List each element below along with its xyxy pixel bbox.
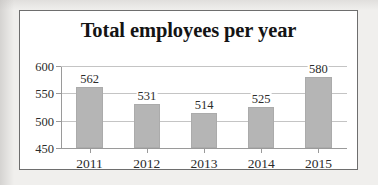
y-axis-label: 500 bbox=[35, 114, 54, 129]
bar[interactable] bbox=[134, 104, 160, 148]
bar[interactable] bbox=[305, 77, 331, 148]
bar[interactable] bbox=[191, 113, 217, 148]
bar[interactable] bbox=[76, 87, 102, 148]
bar-value-label: 562 bbox=[79, 73, 100, 86]
gridline bbox=[61, 93, 347, 94]
x-axis-label: 2013 bbox=[191, 156, 218, 172]
scanned-page-background: Total employees per year 450500550600 56… bbox=[0, 0, 378, 185]
chart-title: Total employees per year bbox=[20, 19, 357, 42]
bar-value-label: 514 bbox=[194, 99, 215, 112]
x-axis-label: 2014 bbox=[248, 156, 275, 172]
bar-value-label: 531 bbox=[136, 90, 157, 103]
x-axis-tick bbox=[204, 149, 205, 153]
x-axis-label: 2015 bbox=[305, 156, 332, 172]
x-axis-label: 2011 bbox=[76, 156, 103, 172]
x-axis-label: 2012 bbox=[133, 156, 160, 172]
x-axis-tick bbox=[318, 149, 319, 153]
gridline bbox=[61, 66, 347, 67]
bar-value-label: 525 bbox=[251, 93, 272, 106]
y-axis-line bbox=[61, 67, 62, 149]
plot-area: 450500550600 562201153120125142013525201… bbox=[61, 67, 347, 149]
y-axis-label: 450 bbox=[35, 142, 54, 157]
y-axis-label: 550 bbox=[35, 87, 54, 102]
bar-value-label: 580 bbox=[308, 63, 329, 76]
x-axis-tick bbox=[147, 149, 148, 153]
x-axis-tick bbox=[261, 149, 262, 153]
chart-frame: Total employees per year 450500550600 56… bbox=[19, 10, 358, 170]
y-axis-label: 600 bbox=[35, 60, 54, 75]
bar[interactable] bbox=[248, 107, 274, 148]
x-axis-tick bbox=[90, 149, 91, 153]
